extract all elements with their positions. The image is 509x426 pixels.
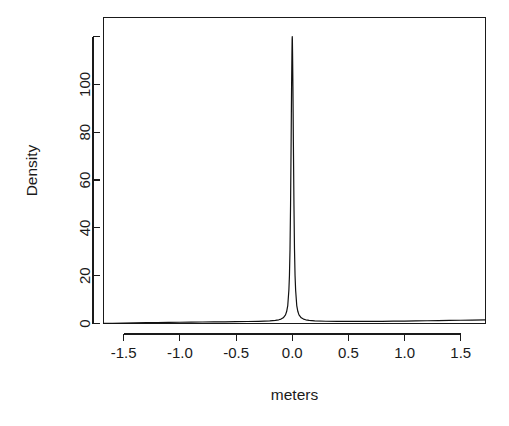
x-axis [124,334,461,341]
density-plot-figure: 020406080100 -1.5-1.0-0.50.00.51.01.5 De… [0,0,509,426]
y-tick-label-2: 40 [76,220,93,237]
y-tick-label-3: 60 [76,172,93,189]
y-tick-label-1: 20 [76,267,93,284]
x-tick-label-5: 1.0 [394,344,415,361]
x-tick-label-3: 0.0 [282,344,303,361]
y-tick-label-4: 80 [76,124,93,141]
y-tick-label-0: 0 [76,319,93,327]
y-tick-label-5: 100 [76,72,93,97]
density-curve-series [104,37,486,324]
density-line-path [104,37,486,324]
y-axis [93,37,100,324]
plot-svg-canvas: 020406080100 -1.5-1.0-0.50.00.51.01.5 De… [0,0,509,426]
x-tick-labels: -1.5-1.0-0.50.00.51.01.5 [111,344,471,361]
x-tick-label-1: -1.0 [167,344,193,361]
x-tick-label-2: -0.5 [223,344,249,361]
plot-frame [104,18,486,324]
y-tick-labels: 020406080100 [76,72,93,328]
plot-box-border [104,18,486,324]
y-axis-title: Density [23,144,40,196]
x-axis-title: meters [271,386,319,403]
x-tick-label-4: 0.5 [338,344,359,361]
x-tick-label-6: 1.5 [450,344,471,361]
x-tick-label-0: -1.5 [111,344,137,361]
